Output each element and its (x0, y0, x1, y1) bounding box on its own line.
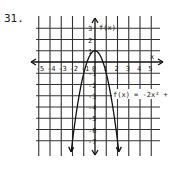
function-label: f(x) = -2x² + 1 (113, 91, 171, 99)
y-tick-label: 2 (88, 37, 92, 45)
y-tick-label: -7 (88, 138, 96, 146)
y-tick-label: -1 (88, 70, 96, 78)
y-tick-label: 3 (88, 25, 92, 33)
x-tick-label: 2 (115, 65, 119, 73)
x-tick-label: -3 (58, 65, 66, 73)
x-tick-label: 4 (137, 65, 141, 73)
x-tick-label: 3 (126, 65, 130, 73)
y-tick-label: -5 (88, 115, 96, 123)
y-tick-label: -4 (88, 104, 96, 112)
y-axis-label: f(x) (99, 24, 116, 32)
y-tick-label: -2 (88, 82, 96, 90)
x-tick-label: -4 (47, 65, 55, 73)
graph: -5-4-3-2-1012345321-1-2-3-4-5-6-7xf(x)f(… (0, 0, 171, 174)
x-tick-label: -5 (36, 65, 44, 73)
y-tick-label: -6 (88, 127, 96, 135)
x-axis-label: x (150, 53, 154, 61)
y-tick-label: -3 (88, 93, 96, 101)
x-tick-label: 5 (148, 65, 152, 73)
x-tick-label: -2 (70, 65, 78, 73)
